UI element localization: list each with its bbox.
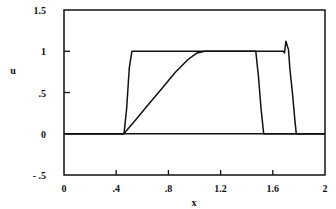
y-tick-label: 0 bbox=[41, 129, 46, 140]
x-tick-label: 0 bbox=[62, 183, 67, 194]
plot-frame bbox=[64, 10, 325, 175]
x-tick-label: 2 bbox=[323, 183, 328, 194]
x-tick-label: .4 bbox=[112, 183, 120, 194]
y-tick-label: 1 bbox=[41, 46, 46, 57]
series-smooth-profile bbox=[64, 51, 325, 134]
x-tick-label: .8 bbox=[165, 183, 173, 194]
y-axis-label: u bbox=[10, 65, 16, 76]
y-tick-label: 1.5 bbox=[34, 5, 47, 16]
x-axis-label: x bbox=[192, 197, 197, 208]
x-tick-label: 1.6 bbox=[267, 183, 280, 194]
x-tick-label: 1.2 bbox=[214, 183, 227, 194]
y-tick-label: .5 bbox=[39, 88, 47, 99]
y-tick-label: - .5 bbox=[33, 170, 46, 181]
chart: 0.4.81.21.62 - .50.511.5 x u bbox=[0, 0, 336, 209]
